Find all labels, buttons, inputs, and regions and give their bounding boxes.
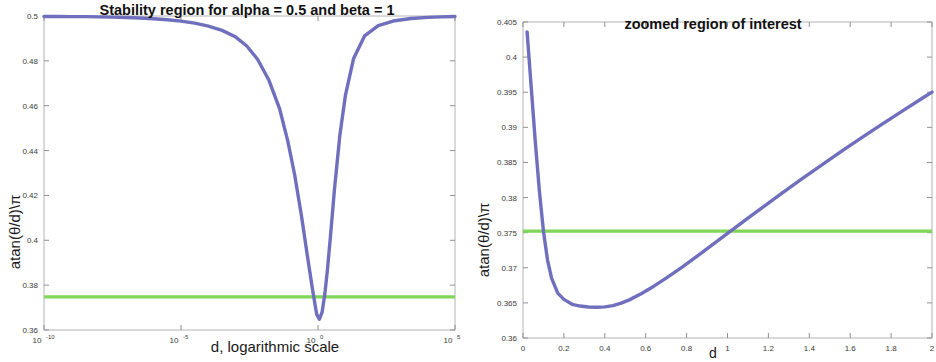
chart-panel-right: 0.360.3650.370.3750.380.3850.390.3950.40… bbox=[468, 0, 936, 362]
svg-text:10: 10 bbox=[33, 336, 42, 345]
y-tick-label: 0.365 bbox=[497, 299, 518, 308]
y-tick-label: 0.37 bbox=[501, 264, 517, 273]
y-tick-label: 0.4 bbox=[27, 236, 39, 245]
right-data-curve bbox=[527, 32, 932, 307]
y-tick-label: 0.44 bbox=[22, 147, 38, 156]
right-x-axis-label: d bbox=[709, 345, 717, 361]
svg-text:10: 10 bbox=[444, 336, 453, 345]
chart-panel-left: 0.360.380.40.420.440.460.480.5 10-1010-5… bbox=[0, 0, 468, 362]
x-tick-label: 0.8 bbox=[681, 344, 693, 353]
left-axis-ticks bbox=[44, 16, 455, 330]
y-tick-label: 0.395 bbox=[497, 88, 518, 97]
left-axes-frame bbox=[44, 16, 455, 330]
x-tick-label: 0.2 bbox=[558, 344, 570, 353]
x-tick-label: 1.6 bbox=[845, 344, 857, 353]
right-plot-svg: 0.360.3650.370.3750.380.3850.390.3950.40… bbox=[468, 0, 936, 362]
svg-text:-5: -5 bbox=[183, 334, 189, 340]
y-tick-label: 0.385 bbox=[497, 158, 518, 167]
right-y-axis-label: atan(θ/d)\π bbox=[475, 203, 492, 278]
x-tick-label: 105 bbox=[444, 334, 461, 345]
y-tick-label: 0.5 bbox=[27, 12, 39, 21]
x-tick-label: 2 bbox=[930, 344, 935, 353]
right-axes-frame bbox=[523, 22, 932, 338]
left-plot-svg: 0.360.380.40.420.440.460.480.5 10-1010-5… bbox=[0, 0, 468, 362]
y-tick-label: 0.36 bbox=[501, 334, 517, 343]
left-y-tick-labels: 0.360.380.40.420.440.460.480.5 bbox=[22, 12, 38, 335]
x-tick-label: 10-10 bbox=[33, 334, 56, 345]
svg-text:10: 10 bbox=[170, 336, 179, 345]
y-tick-label: 0.405 bbox=[497, 18, 518, 27]
y-tick-label: 0.46 bbox=[22, 102, 38, 111]
y-tick-label: 0.38 bbox=[501, 194, 517, 203]
x-tick-label: 1.4 bbox=[804, 344, 816, 353]
y-tick-label: 0.38 bbox=[22, 281, 38, 290]
svg-text:5: 5 bbox=[457, 334, 461, 340]
x-tick-label: 1.8 bbox=[886, 344, 898, 353]
svg-text:-10: -10 bbox=[46, 334, 55, 340]
y-tick-label: 0.375 bbox=[497, 229, 518, 238]
right-x-tick-labels: 00.20.40.60.811.21.41.61.82 bbox=[521, 344, 935, 353]
left-plot-title: Stability region for alpha = 0.5 and bet… bbox=[100, 2, 395, 18]
right-axis-ticks bbox=[523, 22, 932, 338]
right-plot-title: zoomed region of interest bbox=[624, 16, 801, 32]
y-tick-label: 0.36 bbox=[22, 326, 38, 335]
x-tick-label: 1.2 bbox=[763, 344, 775, 353]
y-tick-label: 0.39 bbox=[501, 123, 517, 132]
right-y-tick-labels: 0.360.3650.370.3750.380.3850.390.3950.40… bbox=[497, 18, 518, 343]
y-tick-label: 0.48 bbox=[22, 57, 38, 66]
matlab-figure-window: 0.360.380.40.420.440.460.480.5 10-1010-5… bbox=[0, 0, 936, 362]
x-tick-label: 10-5 bbox=[170, 334, 189, 345]
x-tick-label: 1 bbox=[725, 344, 730, 353]
left-data-curve bbox=[44, 16, 455, 319]
x-tick-label: 0 bbox=[521, 344, 526, 353]
left-y-axis-label: atan(θ/d)\π bbox=[6, 195, 23, 270]
y-tick-label: 0.4 bbox=[506, 53, 518, 62]
x-tick-label: 0.6 bbox=[640, 344, 652, 353]
left-x-axis-label: d, logarithmic scale bbox=[211, 338, 339, 355]
y-tick-label: 0.42 bbox=[22, 191, 38, 200]
x-tick-label: 0.4 bbox=[599, 344, 611, 353]
